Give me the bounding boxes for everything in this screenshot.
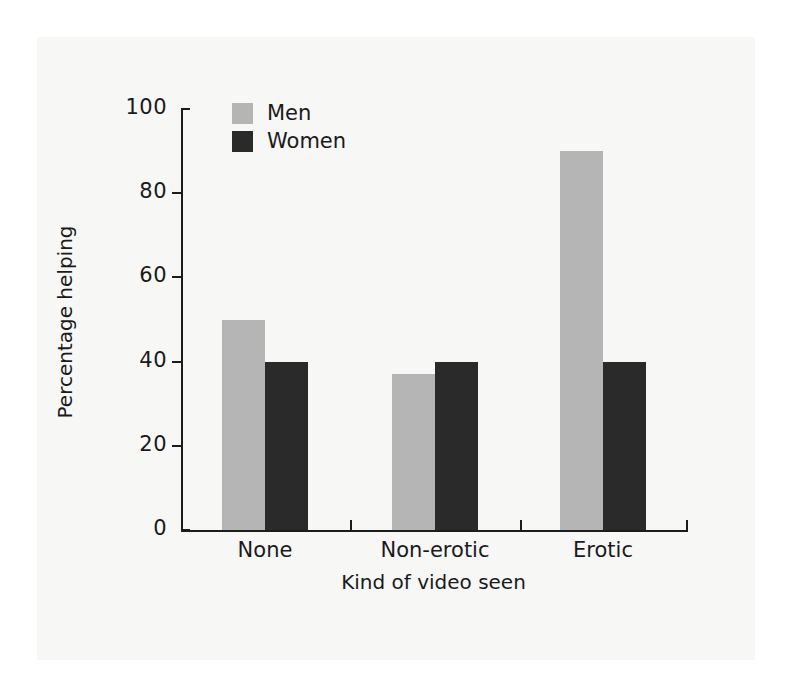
chart-legend: MenWomen (232, 103, 346, 159)
bar-women-none (265, 362, 308, 530)
legend-swatch-men-icon (232, 103, 253, 124)
bar-chart: 020406080100 Percentage helping NoneNon-… (0, 0, 801, 689)
legend-label-men: Men (267, 103, 311, 124)
bar-women-erotic (603, 362, 646, 530)
legend-item-women: Women (232, 131, 346, 152)
x-tick-3 (686, 520, 688, 532)
bar-men-non-erotic (392, 374, 435, 530)
x-tick-1 (350, 520, 352, 532)
x-tick-0 (181, 520, 183, 532)
x-category-label-erotic: Erotic (503, 538, 703, 562)
legend-swatch-women-icon (232, 131, 253, 152)
bar-men-erotic (560, 151, 603, 530)
chart-page: 020406080100 Percentage helping NoneNon-… (0, 0, 801, 689)
x-tick-2 (520, 520, 522, 532)
bar-women-non-erotic (435, 362, 478, 530)
bar-men-none (222, 320, 265, 531)
legend-item-men: Men (232, 103, 346, 124)
x-axis-title: Kind of video seen (181, 570, 686, 594)
legend-label-women: Women (267, 131, 346, 152)
bars-layer (0, 0, 801, 532)
